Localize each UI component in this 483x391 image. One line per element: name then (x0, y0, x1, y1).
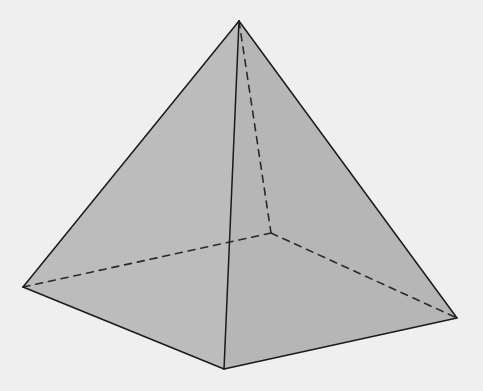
pyramid-canvas (0, 0, 483, 391)
